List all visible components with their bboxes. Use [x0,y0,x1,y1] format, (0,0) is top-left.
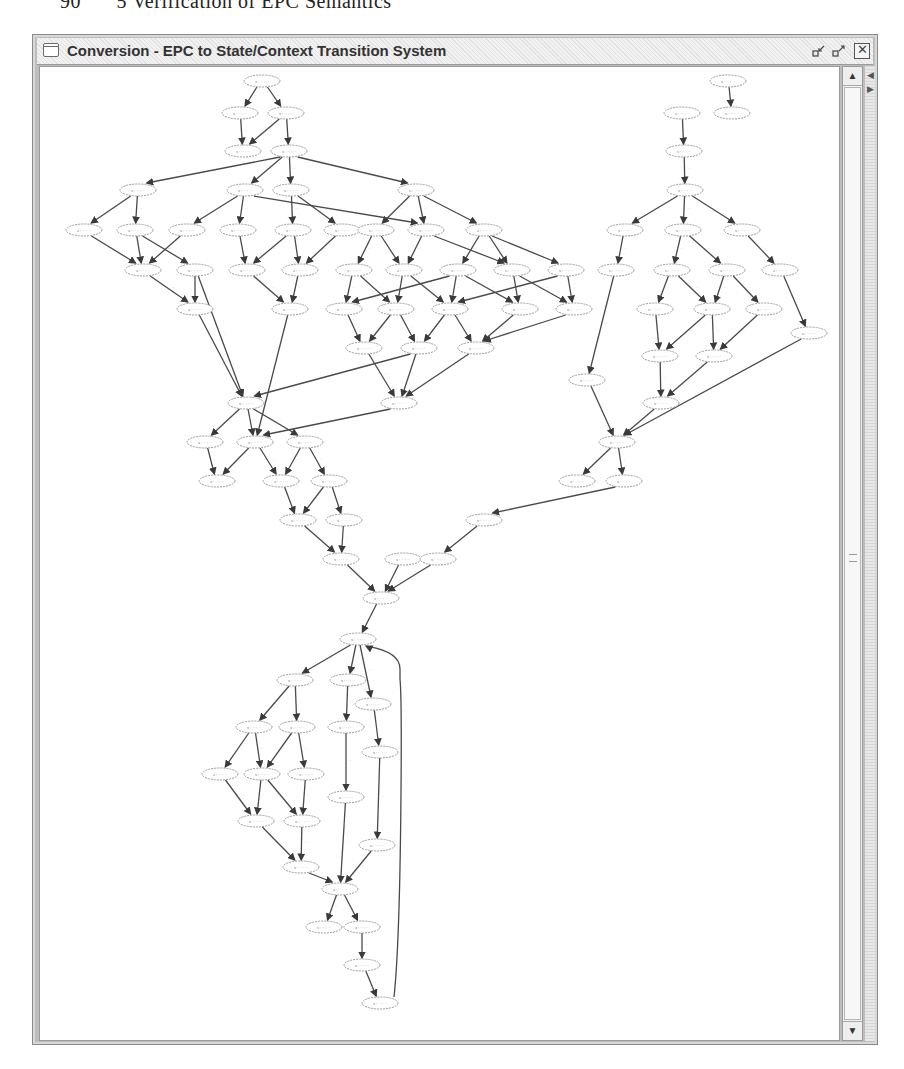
state-node[interactable]: s : ·· : ·· [323,553,359,565]
state-node[interactable]: s : ·· : ·· [398,184,434,196]
state-node[interactable]: s : ·· : ·· [746,303,782,315]
state-node[interactable]: s : ·· : ·· [275,224,311,236]
state-node[interactable]: s : ·· : ·· [268,107,304,119]
state-node[interactable]: s : ·· : ·· [330,674,366,686]
state-node[interactable]: s : ·· : ·· [642,350,678,362]
state-node[interactable]: s : ·· : ·· [359,839,395,851]
state-node[interactable]: s : ·· : ·· [694,303,730,315]
state-node[interactable]: s : ·· : ·· [724,224,760,236]
state-node[interactable]: s : ·· : ·· [791,327,827,339]
state-node[interactable]: s : ·· : ·· [355,698,391,710]
side-panel-strip[interactable]: ◀ ▶ [865,66,875,1041]
state-node[interactable]: s : ·· : ·· [177,303,213,315]
state-node[interactable]: s : ·· : ·· [667,184,703,196]
state-node[interactable]: s : ·· : ·· [340,633,376,645]
scroll-down-button[interactable]: ▼ [843,1021,862,1040]
state-node[interactable]: s : ·· : ·· [548,264,584,276]
state-node[interactable]: s : ·· : ·· [229,264,265,276]
state-node[interactable]: s : ·· : ·· [284,815,320,827]
state-node[interactable]: s : ·· : ·· [385,553,421,565]
state-node[interactable]: s : ·· : ·· [277,674,313,686]
state-node[interactable]: s : ·· : ·· [199,475,235,487]
state-node[interactable]: s : ·· : ·· [599,436,635,448]
state-node[interactable]: s : ·· : ·· [606,475,642,487]
state-node[interactable]: s : ·· : ·· [272,303,308,315]
state-node[interactable]: s : ·· : ·· [714,107,750,119]
state-node[interactable]: s : ·· : ·· [696,350,732,362]
state-node[interactable]: s : ·· : ·· [225,145,261,157]
state-node[interactable]: s : ·· : ·· [283,861,319,873]
state-node[interactable]: s : ·· : ·· [666,145,702,157]
state-node[interactable]: s : ·· : ·· [381,397,417,409]
state-node[interactable]: s : ·· : ·· [432,303,468,315]
scroll-thumb[interactable] [844,87,861,1020]
state-node[interactable]: s : ·· : ·· [322,883,358,895]
close-button[interactable]: ✕ [854,43,870,59]
vertical-scrollbar[interactable]: ▲ ▼ [842,66,863,1041]
state-node[interactable]: s : ·· : ·· [311,475,347,487]
state-node[interactable]: s : ·· : ·· [169,224,205,236]
state-node[interactable]: s : ·· : ·· [494,264,530,276]
state-node[interactable]: s : ·· : ·· [408,224,444,236]
state-node[interactable]: s : ·· : ·· [282,264,318,276]
state-node[interactable]: s : ·· : ·· [280,514,316,526]
state-node[interactable]: s : ·· : ·· [220,224,256,236]
state-node[interactable]: s : ·· : ·· [466,224,502,236]
state-node[interactable]: s : ·· : ·· [569,374,605,386]
state-node[interactable]: s : ·· : ·· [643,397,679,409]
state-node[interactable]: s : ·· : ·· [288,768,324,780]
state-node[interactable]: s : ·· : ·· [222,107,258,119]
state-node[interactable]: s : ·· : ·· [346,342,382,354]
collapse-left-icon[interactable]: ◀ [865,70,875,80]
maximize-button[interactable] [831,43,847,59]
state-node[interactable]: s : ·· : ·· [237,436,273,448]
state-node[interactable]: s : ·· : ·· [306,921,342,933]
state-node[interactable]: s : ·· : ·· [598,264,634,276]
state-node[interactable]: s : ·· : ·· [177,264,213,276]
state-node[interactable]: s : ·· : ·· [287,436,323,448]
state-node[interactable]: s : ·· : ·· [556,303,592,315]
state-node[interactable]: s : ·· : ·· [324,224,360,236]
state-node[interactable]: s : ·· : ·· [637,303,673,315]
state-node[interactable]: s : ·· : ·· [202,768,238,780]
state-node[interactable]: s : ·· : ·· [117,224,153,236]
state-node[interactable]: s : ·· : ·· [378,303,414,315]
state-node[interactable]: s : ·· : ·· [279,721,315,733]
state-node[interactable]: s : ·· : ·· [664,107,700,119]
state-node[interactable]: s : ·· : ·· [559,475,595,487]
state-node[interactable]: s : ·· : ·· [762,264,798,276]
scroll-up-button[interactable]: ▲ [843,67,862,86]
state-node[interactable]: s : ·· : ·· [401,342,437,354]
state-node[interactable]: s : ·· : ·· [187,436,223,448]
state-node[interactable]: s : ·· : ·· [709,264,745,276]
state-node[interactable]: s : ·· : ·· [466,514,502,526]
state-node[interactable]: s : ·· : ·· [328,791,364,803]
state-node[interactable]: s : ·· : ·· [125,264,161,276]
state-node[interactable]: s : ·· : ·· [328,721,364,733]
state-node[interactable]: s : ·· : ·· [238,815,274,827]
title-bar[interactable]: Conversion - EPC to State/Context Transi… [37,38,873,65]
state-node[interactable]: s : ·· : ·· [654,264,690,276]
state-node[interactable]: s : ·· : ·· [271,145,307,157]
state-node[interactable]: s : ·· : ·· [326,303,362,315]
state-node[interactable]: s : ·· : ·· [710,75,746,87]
state-node[interactable]: s : ·· : ·· [420,553,456,565]
state-node[interactable]: s : ·· : ·· [440,264,476,276]
state-node[interactable]: s : ·· : ·· [244,75,280,87]
state-node[interactable]: s : ·· : ·· [228,397,264,409]
state-node[interactable]: s : ·· : ·· [665,224,701,236]
state-node[interactable]: s : ·· : ·· [362,997,398,1009]
state-node[interactable]: s : ·· : ·· [120,184,156,196]
state-node[interactable]: s : ·· : ·· [336,264,372,276]
expand-right-icon[interactable]: ▶ [865,84,875,94]
state-node[interactable]: s : ·· : ·· [358,224,394,236]
state-node[interactable]: s : ·· : ·· [458,342,494,354]
state-node[interactable]: s : ·· : ·· [386,264,422,276]
state-node[interactable]: s : ·· : ·· [502,303,538,315]
state-node[interactable]: s : ·· : ·· [273,184,309,196]
state-node[interactable]: s : ·· : ·· [263,475,299,487]
state-node[interactable]: s : ·· : ·· [344,959,380,971]
state-node[interactable]: s : ·· : ·· [227,184,263,196]
state-node[interactable]: s : ·· : ·· [326,514,362,526]
state-node[interactable]: s : ·· : ·· [344,921,380,933]
